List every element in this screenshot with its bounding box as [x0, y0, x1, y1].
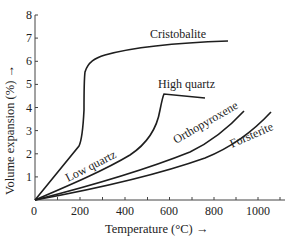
- svg-text:6: 6: [26, 54, 32, 68]
- volume-expansion-chart: 1 2 3 4 5 6 7 8 0 200 400 600 800 1000 T…: [0, 0, 292, 241]
- svg-text:200: 200: [71, 204, 89, 218]
- svg-text:0: 0: [31, 204, 37, 218]
- x-tick-labels: 0 200 400 600 800 1000: [31, 204, 270, 218]
- y-axis-title: Volume expansion (%) →: [3, 65, 17, 195]
- svg-text:400: 400: [116, 204, 134, 218]
- forsterite-label: Forsterite: [228, 119, 276, 150]
- y-tick-labels: 1 2 3 4 5 6 7 8: [26, 8, 32, 184]
- svg-text:1000: 1000: [246, 204, 270, 218]
- x-axis-title: Temperature (°C) →: [105, 222, 208, 236]
- svg-text:3: 3: [26, 124, 32, 138]
- svg-text:4: 4: [26, 101, 32, 115]
- svg-text:8: 8: [26, 8, 32, 22]
- svg-text:2: 2: [26, 147, 32, 161]
- high-quartz-label: High quartz: [158, 77, 215, 91]
- quartz-curve: [35, 94, 205, 200]
- svg-text:800: 800: [205, 204, 223, 218]
- svg-text:1: 1: [26, 170, 32, 184]
- svg-text:7: 7: [26, 31, 32, 45]
- svg-text:600: 600: [160, 204, 178, 218]
- cristobalite-label: Cristobalite: [150, 27, 206, 41]
- svg-text:5: 5: [26, 77, 32, 91]
